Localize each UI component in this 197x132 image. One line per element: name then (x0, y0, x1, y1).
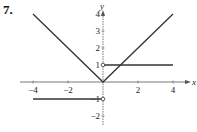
x-tick-label: −4 (28, 85, 38, 95)
x-tick-label: 4 (171, 85, 176, 95)
y-tick-label: 1 (96, 60, 101, 70)
piecewise-function-graph: xy−4−2244321−1−2 (0, 0, 197, 132)
open-endpoint-marker (101, 63, 105, 67)
x-axis-label: x (191, 77, 196, 87)
x-axis-arrow-icon (185, 80, 191, 84)
x-tick-label: −2 (63, 85, 73, 95)
y-tick-label: 4 (96, 9, 101, 19)
y-tick-label: 2 (96, 43, 101, 53)
y-tick-label: −2 (90, 111, 100, 121)
open-endpoint-marker (101, 97, 105, 101)
x-tick-label: 2 (136, 85, 141, 95)
y-tick-label: 3 (96, 26, 101, 36)
